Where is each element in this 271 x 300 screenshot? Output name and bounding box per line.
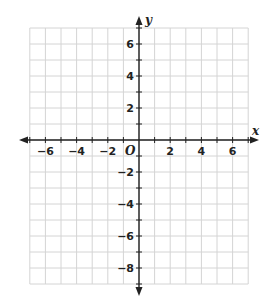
x-axis-left-arrow-icon — [19, 137, 28, 144]
y-tick-label: 4 — [126, 70, 134, 83]
y-tick-label: −2 — [117, 166, 134, 179]
y-tick-label: −8 — [117, 262, 134, 275]
y-tick-label: 2 — [126, 102, 134, 115]
coordinate-plane: −6−4−2246642−2−4−6−8 x y O — [0, 0, 271, 300]
x-tick-label: 6 — [229, 145, 237, 158]
origin-label: O — [125, 144, 136, 158]
y-tick-label: 6 — [126, 38, 134, 51]
x-tick-label: −4 — [68, 145, 85, 158]
x-tick-label: −2 — [99, 145, 116, 158]
x-tick-label: −6 — [37, 145, 54, 158]
x-tick-label: 4 — [198, 145, 206, 158]
x-axis-label: x — [251, 124, 260, 138]
y-axis-down-arrow-icon — [136, 287, 143, 296]
y-tick-label: −4 — [117, 198, 134, 211]
y-tick-label: −6 — [117, 230, 134, 243]
y-axis-label: y — [144, 13, 153, 27]
y-axis-up-arrow-icon — [136, 16, 143, 25]
x-tick-label: 2 — [166, 145, 174, 158]
